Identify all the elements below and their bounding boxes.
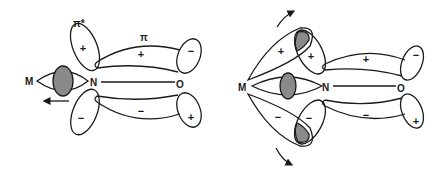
atom-label-n-left: N [90, 77, 97, 88]
sign-o-upper-left: − [188, 45, 194, 57]
pi-label: π [140, 32, 148, 43]
sign-n-lower-right: − [306, 112, 312, 124]
overlap-upper [295, 32, 309, 51]
atom-label-o-right: O [397, 83, 405, 94]
sign-o-lower-right: + [413, 115, 419, 127]
left-panel: M N O π* π + + − − − + [25, 18, 206, 139]
atom-label-n-right: N [322, 82, 329, 93]
sign-o-lower-left: + [188, 111, 194, 123]
sign-m-lower-right: − [275, 111, 281, 123]
sign-n-upper-right: + [308, 50, 314, 62]
n-lower-lobe-left [65, 85, 105, 138]
pi-star-label: π* [73, 18, 85, 29]
sign-pi-upper-left: + [138, 48, 144, 60]
atom-label-m-right: M [238, 82, 246, 93]
sign-m-upper-right: + [278, 45, 284, 57]
sign-n-upper-left: + [80, 42, 86, 54]
mo-diagram: M N O π* π + + − − − + [0, 0, 444, 174]
sign-o-upper-right: − [413, 49, 419, 61]
rotate-arrow-down [276, 148, 292, 165]
atom-label-m-left: M [25, 76, 33, 87]
atom-label-o-left: O [176, 79, 184, 90]
sign-pi-lower-left: − [138, 105, 144, 117]
overlap-lower [295, 123, 309, 142]
rotate-arrow-up [277, 11, 294, 27]
sigma-donor-lobe-right [280, 73, 296, 99]
sign-n-lower-left: − [78, 112, 84, 124]
sigma-donor-lobe-left [53, 66, 73, 96]
sign-pi-upper-right: + [363, 53, 369, 65]
sign-pi-lower-right: − [363, 109, 369, 121]
right-panel: M N O + + + − − − − + [238, 11, 428, 165]
